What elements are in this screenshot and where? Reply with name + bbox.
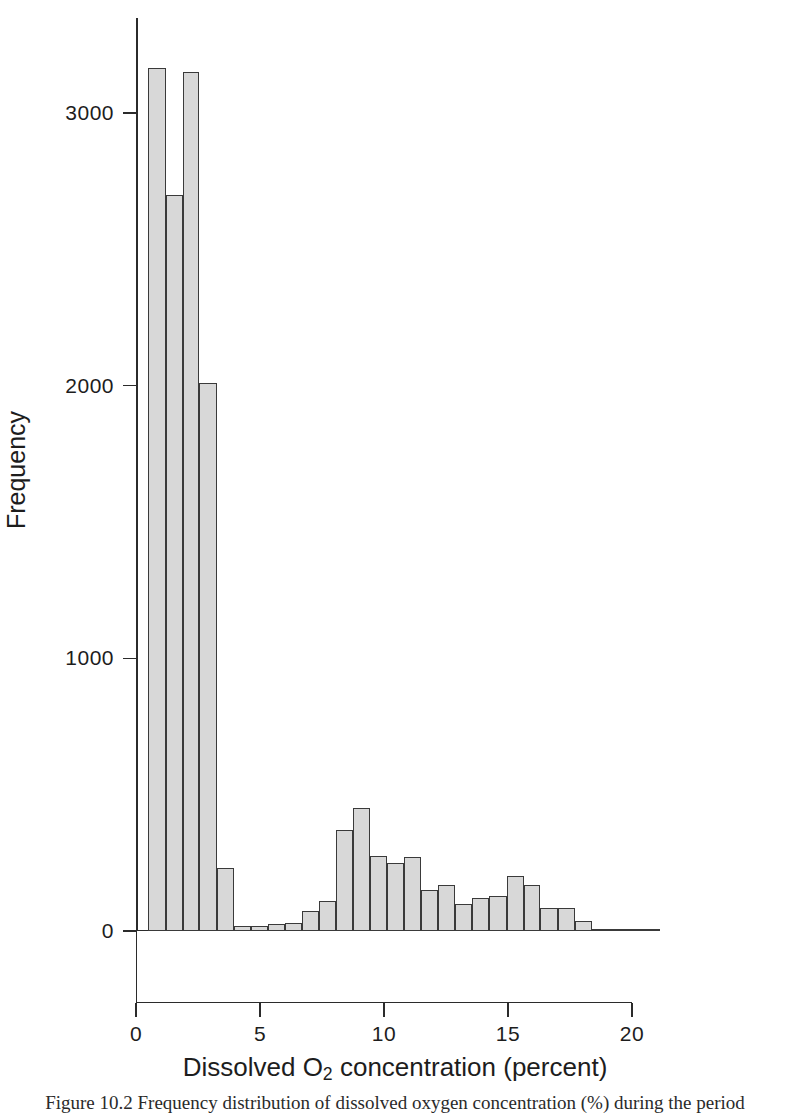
x-axis-tick-label: 5 [254,1022,266,1046]
y-axis-tick: 0 [123,930,136,931]
figure-caption: Figure 10.2 Frequency distribution of di… [0,1092,790,1114]
x-axis-tick [135,1003,136,1017]
histogram-bar [387,863,404,931]
y-axis-tick: 2000 [123,385,136,386]
y-axis-tick: 1000 [123,658,136,659]
x-axis-tick [383,1003,384,1017]
histogram-bar [592,929,609,931]
y-axis-tick-label: 2000 [65,374,114,398]
x-axis-tick-label: 20 [620,1022,644,1046]
x-axis-title-prefix: Dissolved O [183,1052,323,1082]
histogram-bar [251,926,268,931]
y-axis-tick: 3000 [123,112,136,113]
histogram-bar [404,857,421,931]
histogram-bar [626,929,643,931]
histogram-bar [524,885,541,931]
x-axis-title: Dissolved O2 concentration (percent) [0,1052,790,1085]
histogram-bar [489,896,506,931]
x-axis-title-suffix: concentration (percent) [333,1052,608,1082]
x-axis-title-subscript: 2 [323,1064,333,1084]
x-axis-tick-label: 15 [496,1022,520,1046]
y-axis-tick-label: 3000 [65,101,114,125]
x-axis-tick [259,1003,260,1017]
histogram-bar [336,830,353,931]
histogram-bar [319,901,336,931]
histogram-bar [438,885,455,931]
histogram-bar [558,908,575,931]
histogram-bar [268,924,285,931]
histogram-bar [421,890,438,931]
histogram-bar [199,383,216,931]
histogram-bar [183,72,200,931]
plot-area [136,18,632,931]
histogram-bar [217,868,234,931]
histogram-bar [353,808,370,931]
x-axis-tick [507,1003,508,1017]
histogram-bar [234,926,251,931]
histogram-bar [609,929,626,931]
histogram-bar [166,195,183,931]
x-axis-tick-label: 10 [372,1022,396,1046]
histogram-bar [285,923,302,931]
histogram-bar [148,68,165,931]
y-axis-tick-label: 1000 [65,646,114,670]
histogram-bar [370,856,387,931]
histogram-bar [455,904,472,931]
histogram-bar [507,876,524,931]
histogram-bar [540,908,557,931]
histogram-bar [575,921,592,931]
histogram-bar [302,911,319,931]
histogram-bar [643,929,660,931]
x-axis-tick [631,1003,632,1017]
histogram-bar [472,898,489,931]
y-axis-title: Frequency [2,411,31,529]
y-axis-tick-label: 0 [102,919,114,943]
x-axis-tick-label: 0 [130,1022,142,1046]
x-scale-riser [136,931,137,1003]
